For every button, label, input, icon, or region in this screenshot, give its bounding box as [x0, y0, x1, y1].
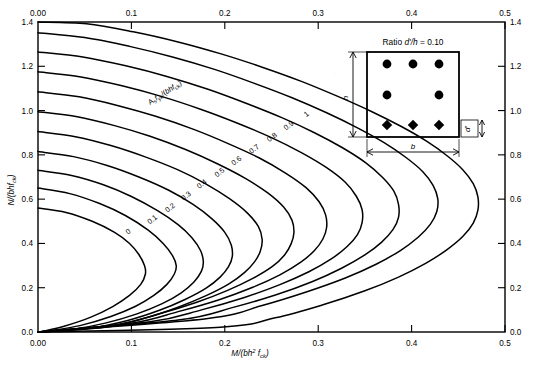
rebar-circle — [435, 91, 444, 100]
y-tick-label-right: 1.0 — [510, 107, 522, 116]
x-tick-label-bottom: 0.2 — [219, 339, 231, 348]
x-tick-label-bottom: 0.4 — [406, 339, 418, 348]
rebar-circle — [383, 91, 392, 100]
y-tick-label-right: 0.4 — [510, 239, 522, 248]
y-tick-label-right: 0.8 — [510, 151, 522, 160]
x-tick-label-top: 0.00 — [30, 9, 46, 18]
y-tick-label-right: 0.0 — [510, 328, 522, 337]
y-tick-label-left: 1.2 — [22, 62, 34, 71]
y-tick-label-right: 0.2 — [510, 284, 522, 293]
y-tick-label-right: 1.2 — [510, 62, 522, 71]
x-tick-label-bottom: 0.1 — [126, 339, 138, 348]
inset-b-label: b — [411, 142, 416, 151]
y-tick-label-left: 1.4 — [22, 18, 34, 27]
y-tick-label-left: 0.8 — [22, 151, 34, 160]
rebar-circle — [409, 60, 418, 69]
inset-d-prime-label: d' — [463, 126, 472, 132]
y-tick-label-left: 1.0 — [22, 107, 34, 116]
x-tick-label-top: 0.3 — [313, 9, 325, 18]
interaction-chart-figure: 0.000.000.10.10.20.20.30.30.40.40.50.50.… — [0, 0, 541, 366]
x-tick-label-top: 0.4 — [406, 9, 418, 18]
inset-ratio-title: Ratio d'/h = 0.10 — [382, 37, 443, 47]
chart-svg: 0.000.000.10.10.20.20.30.30.40.40.50.50.… — [0, 0, 541, 366]
y-tick-label-left: 0.2 — [22, 284, 34, 293]
rebar-circle — [435, 60, 444, 69]
y-tick-label-left: 0.4 — [22, 239, 34, 248]
x-tick-label-bottom: 0.5 — [499, 339, 511, 348]
inset-h-label: h — [341, 95, 350, 100]
y-tick-label-left: 0.6 — [22, 195, 34, 204]
x-tick-label-top: 0.5 — [499, 9, 511, 18]
x-tick-label-top: 0.2 — [219, 9, 231, 18]
x-tick-label-bottom: 0.00 — [30, 339, 46, 348]
x-tick-label-top: 0.1 — [126, 9, 138, 18]
y-tick-label-right: 1.4 — [510, 18, 522, 27]
y-tick-label-left: 0.0 — [22, 328, 34, 337]
rebar-circle — [383, 60, 392, 69]
y-tick-label-right: 0.6 — [510, 195, 522, 204]
x-tick-label-bottom: 0.3 — [313, 339, 325, 348]
